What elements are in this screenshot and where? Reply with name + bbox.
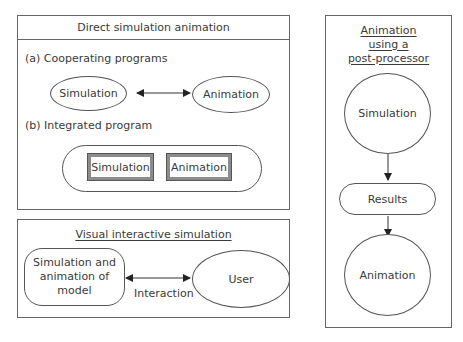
postprocessor-title-line-3: post-processor: [325, 51, 452, 65]
postprocessor-title-line-1: Animation: [325, 23, 452, 37]
simulation-box-b-label: Simulation: [91, 157, 150, 177]
animation-box-b: Animation: [166, 153, 232, 181]
animation-node-a: Animation: [192, 76, 270, 113]
user-node: User: [192, 250, 290, 308]
simulation-circle-node: Simulation: [344, 73, 431, 154]
simulation-model-line-2: animation of: [40, 270, 109, 284]
animation-circle-node: Animation: [344, 234, 431, 316]
animation-box-b-label: Animation: [170, 157, 228, 177]
simulation-model-line-1: Simulation and: [33, 256, 116, 270]
title-divider: [17, 39, 290, 40]
section-b-label: (b) Integrated program: [25, 119, 152, 132]
interactive-panel-title: Visual interactive simulation: [17, 226, 290, 242]
direct-panel-title: Direct simulation animation: [17, 15, 290, 39]
animation-circle-label: Animation: [359, 269, 415, 282]
animation-node-a-label: Animation: [203, 88, 259, 101]
simulation-box-b: Simulation: [87, 153, 154, 181]
simulation-node-a-label: Simulation: [59, 87, 118, 100]
simulation-model-line-3: model: [57, 284, 91, 298]
simulation-node-a: Simulation: [50, 76, 127, 111]
results-node-label: Results: [368, 193, 408, 206]
postprocessor-title-line-2: using a: [325, 37, 452, 51]
interaction-label: Interaction: [134, 287, 194, 300]
results-node: Results: [339, 183, 436, 215]
section-a-label: (a) Cooperating programs: [25, 52, 167, 65]
simulation-circle-label: Simulation: [358, 107, 417, 120]
user-node-label: User: [228, 273, 253, 286]
simulation-model-node: Simulation and animation of model: [24, 248, 125, 306]
